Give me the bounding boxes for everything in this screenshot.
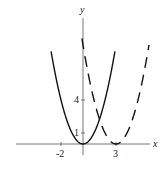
y-tick-label-1: 1 [74,127,79,138]
chart: x y -2 3 1 4 [0,0,165,171]
x-axis-label: x [152,138,158,149]
y-axis-label: y [79,4,85,15]
x-tick-label-3: 3 [113,148,118,159]
x-tick-label-neg2: -2 [56,148,64,159]
dashed-parabola [82,38,149,144]
y-tick-label-4: 4 [74,94,79,105]
